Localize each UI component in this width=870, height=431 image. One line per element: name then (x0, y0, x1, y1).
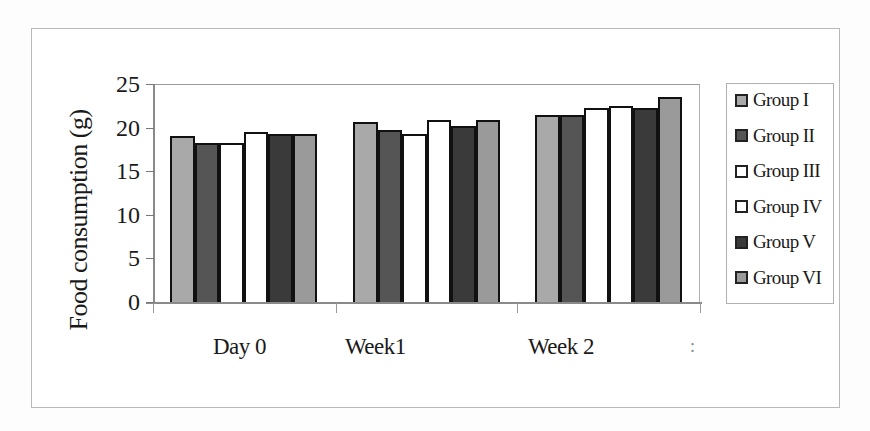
y-tick (146, 258, 154, 259)
bar (535, 115, 560, 302)
x-axis (146, 302, 702, 304)
x-tick (153, 303, 154, 313)
legend: Group IGroup IIGroup IIIGroup IVGroup VG… (726, 83, 834, 304)
y-axis-title: Food consumption (g) (64, 109, 94, 330)
y-tick-label: 10 (100, 203, 140, 227)
y-tick (146, 215, 154, 216)
x-tick-label: Week1 (345, 334, 406, 360)
bar (244, 132, 269, 302)
bar (560, 115, 585, 302)
x-tick (700, 303, 701, 313)
stray-tick-label: : (690, 336, 695, 357)
bar (633, 108, 658, 302)
legend-item: Group V (735, 232, 815, 252)
legend-item: Group I (735, 90, 808, 110)
bar (451, 126, 476, 302)
bar (658, 97, 683, 302)
legend-item: Group II (735, 126, 814, 146)
y-tick (146, 128, 154, 129)
bar (609, 106, 634, 302)
x-tick-label: Week 2 (528, 334, 594, 360)
y-tick-label: 5 (100, 246, 140, 270)
legend-swatch-icon (735, 200, 748, 213)
legend-swatch-icon (735, 129, 748, 142)
y-tick-label: 20 (100, 116, 140, 140)
bar (353, 122, 378, 302)
bar (402, 134, 427, 302)
bar (293, 134, 318, 302)
x-tick (336, 303, 337, 313)
bar (170, 136, 195, 302)
legend-swatch-icon (735, 165, 748, 178)
x-tick (517, 303, 518, 313)
legend-swatch-icon (735, 94, 748, 107)
bar (268, 134, 293, 302)
y-tick-label: 15 (100, 159, 140, 183)
legend-label: Group IV (753, 196, 822, 218)
bar (476, 120, 501, 302)
y-tick-label: 0 (100, 290, 140, 314)
bar (219, 143, 244, 302)
legend-item: Group VI (735, 268, 821, 288)
bar (584, 108, 609, 302)
x-tick-label: Day 0 (213, 334, 266, 360)
legend-swatch-icon (735, 271, 748, 284)
legend-item: Group III (735, 161, 820, 181)
legend-label: Group III (753, 160, 820, 182)
legend-label: Group I (753, 89, 808, 111)
legend-swatch-icon (735, 236, 748, 249)
legend-label: Group II (753, 125, 814, 147)
y-tick-label: 25 (100, 72, 140, 96)
legend-label: Group V (753, 231, 815, 253)
bar (195, 143, 220, 302)
y-tick (146, 171, 154, 172)
legend-label: Group VI (753, 267, 821, 289)
bar (427, 120, 452, 302)
bar (378, 130, 403, 302)
y-axis (153, 84, 155, 304)
y-tick (146, 84, 154, 85)
legend-item: Group IV (735, 197, 822, 217)
